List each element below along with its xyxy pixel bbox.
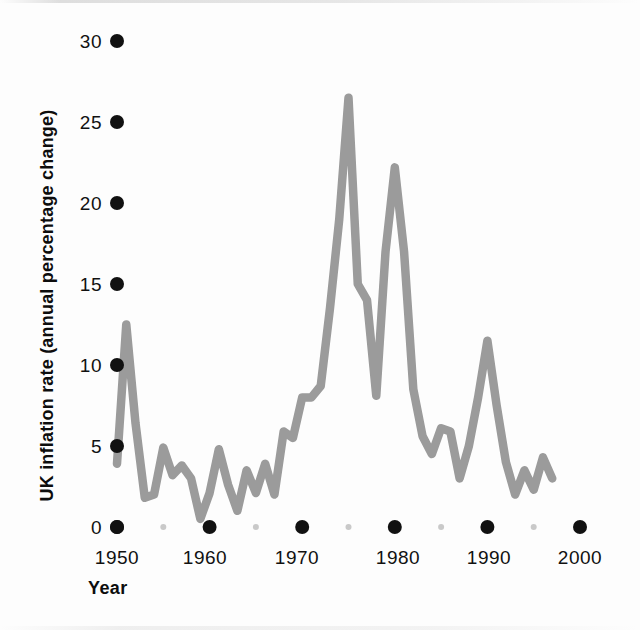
y-tick-dot-25 [110, 115, 124, 129]
x-tick-dot-1990 [480, 520, 494, 534]
y-tick-dot-10 [110, 358, 124, 372]
x-axis-minor-tick-markers [160, 524, 536, 530]
x-minor-tick-dot-1965 [253, 524, 259, 530]
y-tick-label-0: 0 [62, 518, 102, 537]
x-tick-dot-2000 [573, 520, 587, 534]
x-tick-dot-1960 [203, 520, 217, 534]
y-tick-dot-20 [110, 196, 124, 210]
x-tick-dot-1950 [110, 520, 124, 534]
x-minor-tick-dot-1955 [160, 524, 166, 530]
x-minor-tick-dot-1975 [346, 524, 352, 530]
y-tick-label-5: 5 [62, 437, 102, 456]
y-tick-dot-15 [110, 277, 124, 291]
x-tick-label-1980: 1980 [358, 548, 438, 567]
x-tick-label-1990: 1990 [449, 548, 529, 567]
y-tick-label-30: 30 [62, 32, 102, 51]
x-tick-label-2000: 2000 [540, 548, 620, 567]
y-tick-label-15: 15 [62, 275, 102, 294]
x-tick-dot-1970 [295, 520, 309, 534]
x-tick-label-1970: 1970 [257, 548, 337, 567]
x-tick-label-1950: 1950 [77, 548, 157, 567]
y-tick-label-25: 25 [62, 113, 102, 132]
x-axis-title: Year [88, 578, 128, 599]
x-minor-tick-dot-1995 [531, 524, 537, 530]
y-axis-title: UK inflation rate (annual percentage cha… [37, 91, 58, 521]
y-tick-label-20: 20 [62, 194, 102, 213]
y-tick-label-10: 10 [62, 356, 102, 375]
y-tick-dot-5 [110, 439, 124, 453]
x-tick-label-1960: 1960 [165, 548, 245, 567]
inflation-series-line [117, 98, 552, 519]
chart-figure: 30 25 20 15 10 5 0 1950 1960 1970 1980 1… [0, 0, 640, 630]
x-minor-tick-dot-1985 [438, 524, 444, 530]
y-tick-dot-30 [110, 34, 124, 48]
x-tick-dot-1980 [388, 520, 402, 534]
